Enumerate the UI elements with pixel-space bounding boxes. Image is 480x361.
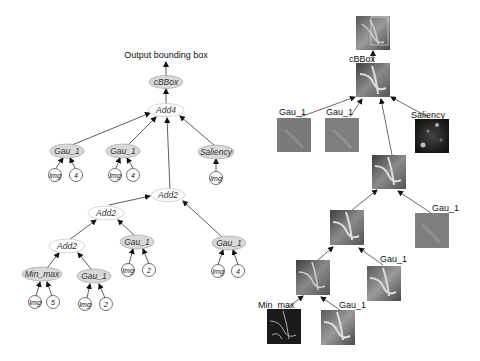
gau1-c-image: [367, 266, 401, 301]
node-gau1-b-label: Gau_1: [110, 146, 136, 156]
gau1-e-label: Gau_1: [339, 300, 366, 310]
node-add4[interactable]: Add4: [148, 104, 184, 117]
leaf-img-label: Img: [109, 172, 121, 180]
leaf-param[interactable]: 2: [100, 298, 113, 311]
leaf-img[interactable]: Img: [49, 169, 62, 182]
node-cbbox-label: cBBox: [154, 77, 179, 87]
node-gau1-a[interactable]: Gau_1: [50, 144, 84, 158]
node-add2-mid-label: Add2: [95, 208, 116, 218]
gau1-a-image: [277, 118, 311, 152]
node-gau1-c-label: Gau_1: [124, 237, 150, 247]
minmax-image: [267, 309, 301, 344]
gau1-a-label: Gau_1: [279, 107, 306, 117]
node-gau1-e-label: Gau_1: [81, 271, 107, 281]
node-add2-top-label: Add2: [157, 190, 178, 200]
gau1-b-image: [325, 118, 359, 152]
gp-tree: Output bounding box cBBox Add4 Gau_1 Img…: [22, 50, 246, 311]
gau1-d-label: Gau_1: [432, 203, 459, 213]
output-image: [356, 16, 390, 50]
minmax-label: Min_max: [258, 300, 295, 310]
leaf-img[interactable]: Img: [212, 265, 225, 278]
diagram-canvas: Output bounding box cBBox Add4 Gau_1 Img…: [0, 0, 480, 361]
add4-image: [356, 63, 390, 97]
leaf-param-label: 4: [74, 172, 78, 179]
leaf-img-label: Img: [79, 301, 91, 309]
node-add2-low-label: Add2: [56, 241, 77, 251]
leaf-param-label: 2: [103, 301, 108, 308]
image-pipeline: cBBox Gau_1 Gau_1 Saliency Gau_1: [258, 16, 459, 345]
node-gau1-e[interactable]: Gau_1: [77, 269, 111, 283]
node-add2-mid[interactable]: Add2: [88, 206, 124, 220]
node-gau1-d[interactable]: Gau_1: [212, 236, 246, 250]
leaf-img-label: Img: [212, 268, 224, 276]
gau1-e-image: [321, 310, 355, 345]
node-gau1-c[interactable]: Gau_1: [120, 235, 154, 249]
leaf-param-label: 4: [236, 268, 240, 275]
node-add2-low[interactable]: Add2: [49, 239, 85, 253]
leaf-img[interactable]: Img: [122, 264, 135, 277]
leaf-param[interactable]: 2: [143, 264, 156, 277]
gau1-d-image: [415, 213, 449, 248]
saliency-label: Saliency: [411, 110, 446, 120]
leaf-img-label: Img: [122, 267, 134, 275]
leaf-param[interactable]: 4: [232, 265, 245, 278]
leaf-img[interactable]: Img: [109, 169, 122, 182]
leaf-img[interactable]: Img: [29, 296, 42, 309]
add2-mid-image: [330, 210, 364, 245]
gau1-c-label: Gau_1: [380, 254, 407, 264]
node-saliency-label: Saliency: [200, 147, 233, 157]
leaf-img-label: Img: [210, 175, 222, 183]
node-gau1-b[interactable]: Gau_1: [106, 144, 140, 158]
leaf-param[interactable]: 4: [127, 169, 140, 182]
leaf-param-label: 5: [51, 299, 55, 306]
node-minmax[interactable]: Min_max: [22, 267, 62, 281]
saliency-image: [415, 119, 449, 153]
node-cbbox[interactable]: cBBox: [149, 76, 183, 89]
leaf-param[interactable]: 4: [70, 169, 83, 182]
leaf-img[interactable]: Img: [79, 298, 92, 311]
leaf-img[interactable]: Img: [210, 172, 223, 185]
node-gau1-d-label: Gau_1: [216, 238, 242, 248]
node-saliency[interactable]: Saliency: [198, 145, 234, 159]
leaf-img-label: Img: [49, 172, 61, 180]
cbbox-label: cBBox: [349, 54, 376, 64]
add2-top-image: [372, 155, 406, 189]
leaf-img-label: Img: [29, 299, 41, 307]
leaf-param[interactable]: 5: [47, 296, 60, 309]
node-add2-top[interactable]: Add2: [151, 189, 185, 202]
leaf-param-label: 4: [131, 172, 135, 179]
gau1-b-label: Gau_1: [326, 107, 353, 117]
add2-low-image: [296, 260, 330, 295]
node-gau1-a-label: Gau_1: [54, 146, 80, 156]
output-bounding-box-label: Output bounding box: [124, 50, 208, 60]
node-minmax-label: Min_max: [25, 269, 60, 279]
node-add4-label: Add4: [155, 105, 176, 115]
leaf-param-label: 2: [146, 267, 151, 274]
